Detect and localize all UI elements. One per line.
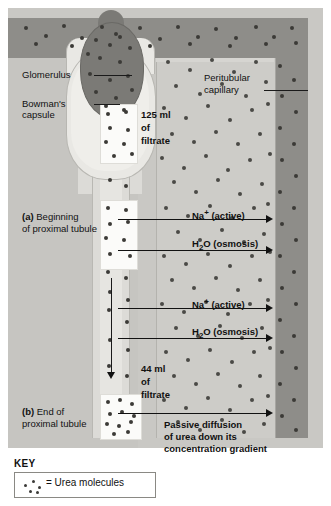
urea-dot [130,152,134,156]
filtrate-patch-middle [100,200,138,270]
urea-dot [94,90,98,94]
urea-dot [108,222,112,226]
urea-dot [94,38,98,42]
peritubular-capillary-leader-line [264,90,308,91]
urea-dot [228,408,232,412]
urea-dot [254,60,258,64]
stage-a-marker: (a) [22,211,34,222]
urea-dot [118,35,122,39]
sodium-arrow-2-head [266,304,273,312]
urea-dot [294,302,298,306]
urea-dot [108,412,112,416]
sodium-symbol: Na [192,299,204,310]
urea-dot [280,286,284,290]
urea-dot [278,382,282,386]
urea-dot [228,264,232,268]
glomerulus-label: Glomerulus [22,69,71,81]
urea-dot [254,25,258,29]
urea-dot [148,44,152,48]
urea-dot [210,58,214,62]
peritubular-capillary-label-line1: Peritubular [204,72,250,84]
urea-dot [280,158,284,162]
urea-dot [174,84,178,88]
urea-dot [206,252,210,256]
urea-dot [100,25,104,29]
urea-dot [280,222,284,226]
water-arrow-2-head [266,334,273,342]
urea-dot [128,46,132,50]
page-bleed-through-text [176,462,326,502]
urea-dot [166,60,170,64]
urea-dot [108,78,112,82]
urea-diffusion-arrow-head [266,409,273,417]
urea-dot [118,60,122,64]
urea-dot [130,88,134,92]
urea-dot [278,190,282,194]
urea-dot [258,132,262,136]
urea-dot [70,44,74,48]
key-urea-icon [20,474,46,496]
urea-dot [294,366,298,370]
sodium-charge: + [204,208,209,217]
urea-dot [34,42,38,46]
urea-dot [278,318,282,322]
bowmans-capsule-leader-line [94,104,120,105]
urea-dot [208,348,212,352]
water-symbol: H [192,326,199,337]
passive-diffusion-line3: concentration gradient [164,443,267,454]
urea-dot [294,174,298,178]
urea-dot [266,298,270,302]
urea-dot [130,402,134,406]
urea-dot [226,312,230,316]
urea-dot [80,36,84,40]
urea-dot [294,238,298,242]
water-mode: (osmosis) [213,326,258,337]
urea-dot [172,180,176,184]
urea-dot [272,35,276,39]
urea-dot [112,154,116,158]
key-legend-text: = Urea molecules [46,477,124,488]
urea-dot [214,276,218,280]
urea-dot [278,254,282,258]
urea-dot [132,414,136,418]
urea-dot [88,72,92,76]
urea-dot [126,430,130,434]
urea-dot [252,206,256,210]
urea-dot [264,80,268,84]
water-arrow-1-head [266,246,273,254]
urea-dot [198,92,202,96]
key-urea-dot [24,484,27,487]
urea-dot [236,142,240,146]
water-oxygen: O [203,238,210,249]
urea-dot [292,398,296,402]
stage-b-line1: End of [37,406,64,417]
stage-b-line2: proximal tubule [22,418,86,430]
urea-dot [248,302,252,306]
urea-dot [292,206,296,210]
urea-dot [248,158,252,162]
urea-dot [230,360,234,364]
urea-dot [238,192,242,196]
bowmans-capsule-label-line2: capsule [22,109,55,121]
bowmans-capsule-label-line1: Bowman's [22,98,66,110]
urea-dot [118,398,122,402]
urea-dot [186,358,190,362]
sodium-transport-label-1: Na+ (active) [192,208,245,221]
urea-dot [292,78,296,82]
urea-dot [128,254,132,258]
stage-b-marker: (b) [22,406,34,417]
urea-dot [292,270,296,274]
urea-dot [176,25,180,29]
urea-dot [192,140,196,144]
filtrate-bottom-volume: 44 ml [141,363,165,375]
urea-dot [266,202,270,206]
urea-dot [184,262,188,266]
urea-dot [262,422,266,426]
urea-dot [294,428,298,432]
urea-dot [182,310,186,314]
urea-dot [258,278,262,282]
urea-dot [186,214,190,218]
sodium-mode: (active) [211,299,244,310]
urea-dot [104,236,108,240]
urea-dot [108,178,112,182]
